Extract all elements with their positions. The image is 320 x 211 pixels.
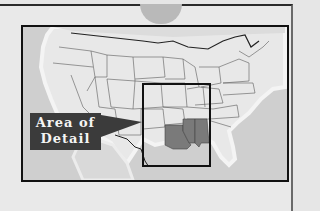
area-of-detail-label: Area of Detail [30, 113, 101, 150]
label-line-1: Area of [30, 115, 101, 131]
state-alabama [195, 119, 209, 147]
us-map [23, 27, 287, 180]
map-frame [21, 25, 289, 182]
label-line-2: Detail [30, 131, 101, 147]
